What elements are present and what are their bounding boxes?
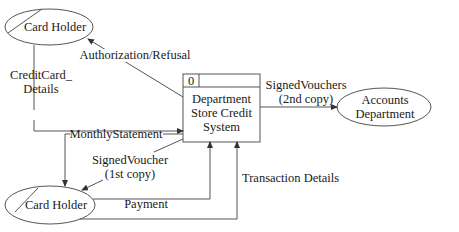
flow-label-line-2: (2nd copy) <box>279 92 334 106</box>
flow-label-line-2: (1st copy) <box>105 167 155 181</box>
flow-signed-vouchers-2nd-copy[interactable]: SignedVouchers (2nd copy) <box>260 78 347 107</box>
entity-card-holder-bottom[interactable]: Card Holder <box>5 186 95 224</box>
process-label-line-1: Department <box>192 92 252 106</box>
flow-line <box>82 180 103 190</box>
flow-label: Payment <box>124 197 168 211</box>
flow-line <box>65 134 70 186</box>
flow-label-line-1: CreditCard_ <box>10 68 73 82</box>
flow-authorization-refusal[interactable]: Authorization/Refusal <box>79 39 191 97</box>
entity-accounts-department[interactable]: Accounts Department <box>337 88 431 126</box>
process-department-store-credit-system[interactable]: 0 Department Store Credit System <box>183 74 260 142</box>
entity-label-line-2: Department <box>355 107 415 121</box>
entity-label: Card Holder <box>25 198 88 212</box>
flow-label: MonthlyStatement <box>69 127 163 141</box>
flow-signed-voucher-1st-copy[interactable]: SignedVoucher (1st copy) <box>82 139 183 190</box>
process-id: 0 <box>188 74 194 88</box>
flow-label-line-2: Details <box>23 82 59 96</box>
entity-label-line-1: Accounts <box>361 93 408 107</box>
flow-label-line-1: SignedVouchers <box>265 78 346 92</box>
process-label-line-3: System <box>203 120 240 134</box>
process-label-line-2: Store Credit <box>191 106 252 120</box>
flow-label: Transaction Details <box>242 171 339 185</box>
entity-card-holder-top[interactable]: Card Holder <box>5 9 93 45</box>
data-flow-diagram: Card Holder 0 Department Store Credit Sy… <box>0 0 459 232</box>
flow-label: Authorization/Refusal <box>79 48 191 62</box>
entity-label: Card Holder <box>24 20 87 34</box>
flow-label-line-1: SignedVoucher <box>92 153 169 167</box>
